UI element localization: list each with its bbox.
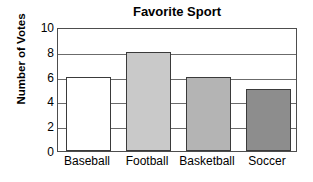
gridline <box>58 54 296 55</box>
y-axis-label: Number of Votes <box>15 0 27 119</box>
y-axis-tick-label: 4 <box>32 96 54 108</box>
bar <box>66 77 111 151</box>
x-axis-tick-labels: BaseballFootballBasketballSoccer <box>57 155 297 177</box>
y-axis-tick-label: 0 <box>32 146 54 158</box>
bar-chart: Favorite Sport Number of Votes 0246810 B… <box>0 0 313 182</box>
y-axis-tick-label: 8 <box>32 47 54 59</box>
bar <box>126 52 171 151</box>
y-axis-tick-label: 2 <box>32 121 54 133</box>
y-axis-tick-label: 10 <box>32 22 54 34</box>
x-axis-tick-label: Baseball <box>57 155 117 168</box>
y-axis-tick-label: 6 <box>32 72 54 84</box>
x-axis-tick-label: Soccer <box>237 155 297 168</box>
plot-area <box>57 28 297 152</box>
x-axis-tick-label: Football <box>117 155 177 168</box>
bar <box>246 89 291 151</box>
bar <box>186 77 231 151</box>
y-axis-tick-labels: 0246810 <box>28 28 54 152</box>
chart-title: Favorite Sport <box>57 4 297 19</box>
x-axis-tick-label: Basketball <box>177 155 237 168</box>
